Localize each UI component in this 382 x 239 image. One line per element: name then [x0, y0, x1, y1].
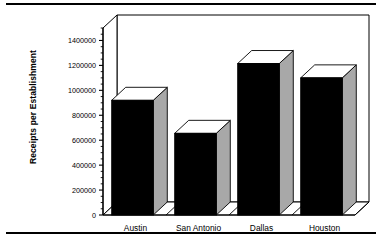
y-axis-tick-labels: 0200000400000600000800000100000012000001… [68, 36, 96, 220]
bar-front-face [112, 100, 154, 215]
x-category-label: Houston [309, 223, 341, 233]
y-tick-label: 600000 [72, 136, 96, 145]
x-category-label: San Antonio [176, 223, 222, 233]
y-tick-label: 0 [92, 211, 96, 220]
bar-front-face [238, 64, 280, 215]
bar [238, 51, 294, 215]
bar-side-face [153, 87, 167, 215]
bar-side-face [342, 65, 356, 215]
bar-front-face [175, 133, 217, 215]
bar [301, 65, 357, 215]
x-category-label: Dallas [250, 223, 273, 233]
chart-svg: 0200000400000600000800000100000012000001… [0, 0, 382, 239]
bar [112, 87, 168, 215]
bar [175, 120, 231, 215]
y-tick-label: 1200000 [68, 61, 96, 70]
y-tick-label: 1400000 [68, 36, 96, 45]
y-tick-label: 200000 [72, 186, 96, 195]
bar-chart: 0200000400000600000800000100000012000001… [0, 0, 382, 239]
bar-side-face [216, 120, 230, 215]
y-tick-label: 400000 [72, 161, 96, 170]
chart-page: Receipts per Establishment 0200000400000… [0, 0, 382, 239]
x-axis-category-labels: AustinSan AntonioDallasHouston [124, 223, 341, 233]
bar-front-face [301, 78, 343, 215]
y-tick-label: 800000 [72, 111, 96, 120]
x-category-label: Austin [124, 223, 148, 233]
bar-side-face [279, 51, 293, 215]
y-tick-label: 1000000 [68, 86, 96, 95]
